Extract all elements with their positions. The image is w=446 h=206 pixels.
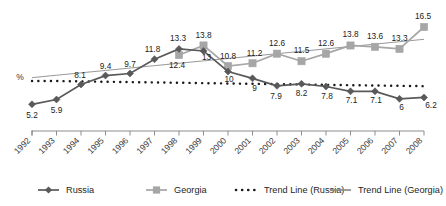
data-point-georgia [420, 23, 427, 30]
line-chart-plot: 5.25.98.19.49.711.813.3131097.98.27.87.1… [0, 0, 446, 206]
data-label-russia: 7.1 [346, 95, 358, 105]
data-point-russia [347, 88, 354, 95]
x-axis-tick-label: 1994 [61, 135, 82, 156]
x-axis-tick-label: 1999 [183, 135, 204, 156]
legend-item[interactable]: Trend Line (Russia) [236, 185, 344, 195]
x-axis-tick-label: 1995 [85, 135, 106, 156]
x-axis-tick-label: 2004 [306, 135, 327, 156]
x-axis-tick-label: 2001 [232, 135, 253, 156]
data-point-georgia [249, 60, 256, 67]
data-label-russia: 8.1 [74, 70, 86, 80]
data-label-georgia: 13.3 [391, 33, 408, 43]
x-axis-tick-labels: 1992199319941995199619971998199920002001… [12, 135, 425, 156]
legend-item[interactable]: Russia [38, 185, 95, 195]
x-axis-tick-label: 2008 [404, 135, 425, 156]
data-label-russia: 6.2 [425, 100, 437, 110]
data-label-georgia: 13.8 [342, 29, 359, 39]
data-label-georgia: 12.6 [318, 38, 335, 48]
data-point-georgia [298, 58, 305, 65]
x-axis-tick-label: 2003 [281, 135, 302, 156]
x-axis-tick-label: 2007 [379, 135, 400, 156]
data-point-georgia [273, 50, 280, 57]
legend-label: Trend Line (Georgia) [358, 185, 443, 195]
x-axis-tick-label: 2006 [355, 135, 376, 156]
data-point-russia [151, 56, 158, 63]
data-label-russia: 5.9 [51, 105, 63, 115]
data-label-georgia: 11.5 [294, 45, 310, 55]
data-label-georgia: 12.4 [169, 60, 186, 70]
x-axis-tick-label: 1998 [159, 135, 180, 156]
chart-legend: RussiaGeorgiaTrend Line (Russia)Trend Li… [38, 185, 443, 195]
data-label-russia: 6 [399, 102, 404, 112]
data-label-russia: 7.9 [270, 91, 282, 101]
data-label-georgia: 16.5 [415, 11, 432, 21]
data-label-georgia: 11.2 [247, 48, 263, 58]
x-axis-tick-label: 1992 [12, 135, 33, 156]
data-label-russia: 7.8 [321, 91, 333, 101]
data-label-russia: 7.1 [370, 95, 382, 105]
data-point-georgia [322, 50, 329, 57]
x-axis-tick-label: 2005 [330, 135, 351, 156]
data-label-russia: 13.3 [170, 33, 187, 43]
chart-container: 5.25.98.19.49.711.813.3131097.98.27.87.1… [0, 0, 446, 206]
legend-item[interactable]: Trend Line (Georgia) [330, 185, 443, 195]
data-point-russia [127, 70, 134, 77]
data-point-georgia [396, 45, 403, 52]
data-point-russia [29, 101, 36, 108]
data-label-russia: 9.7 [124, 59, 136, 69]
legend-marker-diamond [45, 186, 52, 193]
x-axis-tick-label: 2000 [208, 135, 229, 156]
data-point-russia [372, 88, 379, 95]
x-axis-tick-label: 1996 [110, 135, 131, 156]
data-label-georgia: 13.8 [195, 30, 212, 40]
data-label-russia: 10 [224, 74, 234, 84]
x-axis-tick-label: 2002 [257, 135, 278, 156]
data-label-georgia: 10.8 [220, 51, 237, 61]
data-point-russia [298, 80, 305, 87]
data-label-russia: 5.2 [26, 110, 38, 120]
data-label-russia: 13 [202, 52, 212, 62]
data-label-russia: 9.4 [100, 61, 112, 71]
data-label-russia: 11.8 [145, 44, 161, 54]
x-axis-tick-label: 1997 [134, 135, 155, 156]
legend-item[interactable]: Georgia [146, 185, 208, 195]
x-axis [32, 130, 424, 136]
legend-label: Russia [66, 185, 95, 195]
legend-label: Georgia [174, 185, 208, 195]
data-point-russia [274, 82, 281, 89]
data-label-georgia: 13.6 [367, 31, 384, 41]
y-axis-unit-label: % [16, 72, 24, 82]
data-point-georgia [371, 43, 378, 50]
x-axis-tick-label: 1993 [36, 135, 57, 156]
data-label-georgia: 12.6 [269, 38, 286, 48]
data-point-georgia [347, 42, 354, 49]
data-label-russia: 9 [252, 83, 257, 93]
data-point-russia [102, 72, 109, 79]
legend-marker-square [153, 186, 160, 193]
data-label-russia: 8.2 [296, 88, 308, 98]
data-point-russia [249, 75, 256, 82]
